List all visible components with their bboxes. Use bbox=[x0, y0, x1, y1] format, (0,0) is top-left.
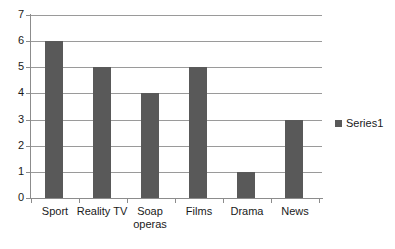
bar-soap-operas bbox=[141, 93, 159, 198]
y-tick-label-0: 0 bbox=[2, 192, 24, 203]
y-tick-mark-7 bbox=[26, 15, 30, 16]
x-tick-mark-4 bbox=[223, 198, 224, 203]
y-tick-mark-5 bbox=[26, 67, 30, 68]
y-tick-mark-1 bbox=[26, 172, 30, 173]
y-tick-label-4: 4 bbox=[2, 87, 24, 98]
x-tick-mark-1 bbox=[79, 198, 80, 203]
bar-chart: 7 6 5 4 3 2 1 0 Sport Reality TV Soap op… bbox=[0, 0, 395, 249]
x-tick-mark-6 bbox=[319, 198, 320, 203]
x-tick-label-reality-tv: Reality TV bbox=[76, 205, 128, 218]
legend-label-series1: Series1 bbox=[346, 118, 383, 129]
x-tick-label-soap-operas: Soap operas bbox=[132, 205, 168, 231]
x-tick-label-news: News bbox=[270, 205, 320, 218]
bar-series-series1 bbox=[31, 15, 322, 198]
y-tick-mark-6 bbox=[26, 41, 30, 42]
x-axis-labels: Sport Reality TV Soap operas Films Drama… bbox=[31, 205, 322, 249]
bar-reality-tv bbox=[93, 67, 111, 198]
x-tick-mark-3 bbox=[175, 198, 176, 203]
y-tick-label-7: 7 bbox=[2, 9, 24, 20]
y-tick-mark-2 bbox=[26, 146, 30, 147]
y-tick-mark-4 bbox=[26, 93, 30, 94]
bar-films bbox=[189, 67, 207, 198]
y-tick-label-3: 3 bbox=[2, 114, 24, 125]
x-tick-mark-0 bbox=[31, 198, 32, 203]
y-axis-line bbox=[30, 14, 31, 199]
y-tick-mark-0 bbox=[26, 198, 30, 199]
y-tick-label-5: 5 bbox=[2, 61, 24, 72]
chart-legend: Series1 bbox=[335, 118, 383, 129]
x-tick-mark-5 bbox=[271, 198, 272, 203]
x-axis-line bbox=[30, 198, 323, 199]
x-tick-label-films: Films bbox=[174, 205, 224, 218]
bar-sport bbox=[45, 41, 63, 198]
x-tick-label-drama: Drama bbox=[222, 205, 272, 218]
legend-swatch-icon bbox=[335, 120, 342, 127]
y-axis-labels: 7 6 5 4 3 2 1 0 bbox=[0, 0, 24, 249]
x-tick-mark-2 bbox=[127, 198, 128, 203]
y-tick-label-1: 1 bbox=[2, 166, 24, 177]
bar-drama bbox=[237, 172, 255, 198]
y-tick-label-2: 2 bbox=[2, 140, 24, 151]
x-tick-label-sport: Sport bbox=[30, 205, 80, 218]
y-tick-mark-3 bbox=[26, 120, 30, 121]
bar-news bbox=[285, 120, 303, 198]
y-tick-label-6: 6 bbox=[2, 35, 24, 46]
